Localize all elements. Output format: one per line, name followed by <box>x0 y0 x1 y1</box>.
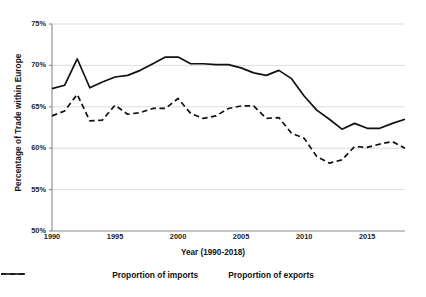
legend-solid-line-icon <box>0 270 26 278</box>
legend-item-imports: Proportion of imports <box>112 270 198 280</box>
data-series-layer <box>52 57 405 163</box>
series-line-imports <box>52 94 405 163</box>
axis-lines <box>49 24 405 231</box>
legend-item-exports: Proportion of exports <box>228 270 314 280</box>
line-chart: Percentage of Trade within Europe Year (… <box>0 0 426 297</box>
chart-legend: Proportion of imports Proportion of expo… <box>0 270 426 280</box>
series-line-exports <box>52 57 405 129</box>
legend-label-exports: Proportion of exports <box>228 270 314 280</box>
legend-label-imports: Proportion of imports <box>112 270 198 280</box>
gridlines <box>52 24 405 190</box>
plot-area <box>0 0 426 297</box>
